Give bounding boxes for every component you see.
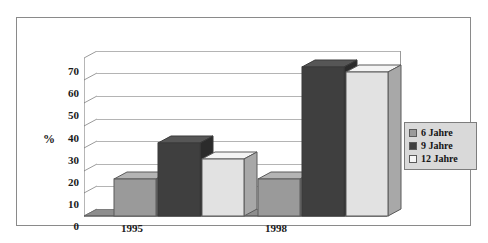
legend-swatch-icon — [409, 129, 417, 137]
y-tick-label: 60 — [53, 88, 79, 99]
legend-swatch-icon — [409, 155, 417, 163]
y-tick-label: 70 — [53, 66, 79, 77]
y-axis-ticks: 70 60 50 40 30 20 10 0 — [43, 18, 79, 243]
legend-label: 6 Jahre — [421, 128, 453, 138]
chart-frame: 70 60 50 40 30 20 10 0 % — [16, 17, 471, 226]
y-tick-label: 50 — [53, 110, 79, 121]
y-tick-label: 0 — [53, 221, 79, 232]
y-tick-label: 40 — [53, 133, 79, 144]
legend-swatch-icon — [409, 142, 417, 150]
bars-layer — [84, 58, 400, 216]
x-tick-label-1998: 1998 — [246, 222, 306, 234]
y-tick-label: 20 — [53, 177, 79, 188]
gridline — [97, 51, 400, 52]
y-tick-label: 10 — [53, 199, 79, 210]
chart-page: 70 60 50 40 30 20 10 0 % — [0, 0, 488, 243]
legend-label: 9 Jahre — [421, 141, 453, 151]
x-tick-label-1995: 1995 — [102, 222, 162, 234]
legend-item-6-jahre[interactable]: 6 Jahre — [409, 126, 472, 139]
legend-label: 12 Jahre — [421, 154, 458, 164]
bar-1995-12-jahre — [202, 152, 257, 216]
chart-legend[interactable]: 6 Jahre 9 Jahre 12 Jahre — [404, 122, 477, 170]
y-tick-label: 30 — [53, 155, 79, 166]
y-axis-label: % — [43, 132, 55, 147]
legend-item-12-jahre[interactable]: 12 Jahre — [409, 152, 472, 165]
legend-item-9-jahre[interactable]: 9 Jahre — [409, 139, 472, 152]
bar-1998-12-jahre — [346, 65, 401, 216]
